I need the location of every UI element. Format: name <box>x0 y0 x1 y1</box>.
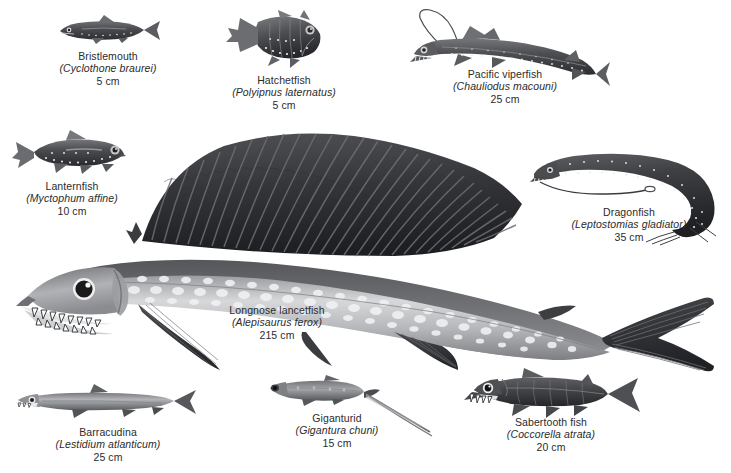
scientific-name: (Alepisaurus ferox) <box>204 316 350 328</box>
size-label: 5 cm <box>52 75 164 87</box>
hatchetfish-fish-icon <box>218 8 350 70</box>
specimen-pacific-viperfish: Pacific viperfish (Chauliodus macouni) 2… <box>396 4 612 120</box>
scientific-name: (Gigantura chuni) <box>262 424 412 436</box>
specimen-bristlemouth: Bristlemouth (Cyclothone braurei) 5 cm <box>52 12 164 84</box>
bristlemouth-fish-icon <box>52 12 164 46</box>
common-name: Longnose lancetfish <box>204 304 350 316</box>
common-name: Bristlemouth <box>52 50 164 62</box>
size-label: 215 cm <box>204 329 350 341</box>
scientific-name: (Lestidium atlanticum) <box>20 438 196 450</box>
caption-sabertooth-fish: Sabertooth fish (Coccorella atrata) 20 c… <box>462 416 640 453</box>
size-label: 25 cm <box>20 451 196 463</box>
scientific-name: (Cyclothone braurei) <box>52 62 164 74</box>
lancetfish-fish-icon <box>14 126 724 371</box>
specimen-barracudina: Barracudina (Lestidium atlanticum) 25 cm <box>12 382 202 470</box>
scientific-name: (Coccorella atrata) <box>462 428 640 440</box>
common-name: Giganturid <box>262 412 412 424</box>
scientific-name: (Polyipnus laternatus) <box>218 86 350 98</box>
size-label: 25 cm <box>410 93 600 105</box>
specimen-hatchetfish: Hatchetfish (Polyipnus laternatus) 5 cm <box>218 8 350 106</box>
size-label: 15 cm <box>262 437 412 449</box>
specimen-giganturid: Giganturid (Gigantura chuni) 15 cm <box>262 374 450 470</box>
specimen-sabertooth-fish: Sabertooth fish (Coccorella atrata) 20 c… <box>462 366 652 470</box>
deep-sea-fish-plate: Bristlemouth (Cyclothone braurei) 5 cm <box>0 0 731 473</box>
common-name: Pacific viperfish <box>410 68 600 80</box>
barracudina-fish-icon <box>12 382 202 422</box>
caption-bristlemouth: Bristlemouth (Cyclothone braurei) 5 cm <box>52 50 164 87</box>
caption-longnose-lancetfish: Longnose lancetfish (Alepisaurus ferox) … <box>204 304 350 341</box>
caption-giganturid: Giganturid (Gigantura chuni) 15 cm <box>262 412 412 449</box>
specimen-longnose-lancetfish: Longnose lancetfish (Alepisaurus ferox) … <box>14 126 724 371</box>
caption-barracudina: Barracudina (Lestidium atlanticum) 25 cm <box>20 426 196 463</box>
common-name: Hatchetfish <box>218 74 350 86</box>
scientific-name: (Chauliodus macouni) <box>410 80 600 92</box>
caption-hatchetfish: Hatchetfish (Polyipnus laternatus) 5 cm <box>218 74 350 111</box>
common-name: Sabertooth fish <box>462 416 640 428</box>
size-label: 20 cm <box>462 441 640 453</box>
common-name: Barracudina <box>20 426 196 438</box>
caption-pacific-viperfish: Pacific viperfish (Chauliodus macouni) 2… <box>410 68 600 105</box>
size-label: 5 cm <box>218 99 350 111</box>
